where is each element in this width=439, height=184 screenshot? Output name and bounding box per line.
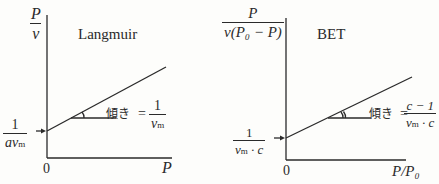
diagram-graphics bbox=[0, 0, 439, 184]
langmuir-arrow-head bbox=[41, 129, 46, 134]
slope-num: c − 1 bbox=[404, 99, 436, 113]
slope-den: vm · c bbox=[404, 113, 436, 129]
bet-slope-angle-arc bbox=[341, 112, 343, 118]
bet-arrow-head bbox=[280, 136, 285, 141]
bet-x-axis-label: P/P₀ bbox=[392, 164, 420, 179]
bet-y-axis-label: P v(P₀ − P) bbox=[222, 6, 284, 40]
y-label-den: v(P₀ − P) bbox=[222, 22, 284, 40]
langmuir-origin-label: 0 bbox=[43, 162, 50, 176]
intercept-den: avm bbox=[3, 133, 27, 150]
slope-den: vm bbox=[149, 114, 166, 131]
slope-prefix: 傾き bbox=[106, 107, 130, 121]
langmuir-x-axis-label: P bbox=[162, 160, 172, 176]
y-label-num: P bbox=[246, 6, 259, 22]
slope-den-sub: m bbox=[412, 119, 419, 129]
intercept-num: 1 bbox=[10, 118, 21, 133]
slope-eq: = bbox=[138, 106, 146, 121]
langmuir-slope-label: 傾き = bbox=[106, 105, 150, 121]
langmuir-slope-frac: 1 vm bbox=[149, 99, 166, 131]
slope-num: 1 bbox=[152, 99, 163, 114]
slope-den-sub: m bbox=[157, 120, 164, 130]
y-label-den: v bbox=[30, 23, 41, 42]
bet-slope-frac: c − 1 vm · c bbox=[404, 99, 436, 129]
y-label-num: P bbox=[29, 6, 43, 23]
langmuir-y-axis-label: P v bbox=[29, 6, 43, 42]
bet-slope-angle-arc-2 bbox=[344, 112, 346, 119]
bet-intercept-label: 1 vm · c bbox=[233, 126, 265, 156]
langmuir-intercept-label: 1 avm bbox=[3, 118, 27, 150]
intercept-den-sub: m bbox=[18, 139, 25, 149]
intercept-den-main: av bbox=[5, 135, 18, 150]
intercept-num: 1 bbox=[244, 126, 255, 140]
intercept-den: vm · c bbox=[233, 140, 265, 156]
intercept-den-sub: m bbox=[241, 146, 248, 156]
bet-origin-label: 0 bbox=[283, 164, 290, 178]
slope-prefix: 傾き bbox=[369, 107, 393, 121]
langmuir-title: Langmuir bbox=[78, 27, 137, 42]
slope-den-rest: · c bbox=[419, 115, 435, 130]
bet-title: BET bbox=[317, 27, 345, 42]
langmuir-slope-angle-arc bbox=[82, 112, 84, 118]
intercept-den-rest: · c bbox=[248, 142, 264, 157]
